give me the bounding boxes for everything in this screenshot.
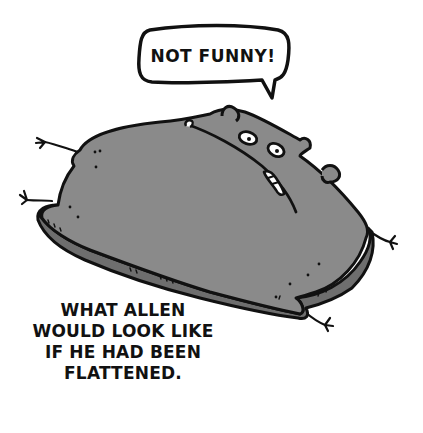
flattened-body — [38, 109, 373, 318]
paw-upper-left — [36, 138, 78, 152]
caption-line: WOULD LOOK LIKE — [28, 321, 218, 342]
ear-right-icon — [322, 166, 340, 183]
speech-bubble: NOT FUNNY! — [139, 26, 289, 99]
caption-line: IF HE HAD BEEN — [28, 342, 218, 363]
nub-icon — [185, 120, 192, 127]
caption-line: FLATTENED. — [28, 363, 218, 384]
paw-bottom — [305, 312, 333, 331]
caption-line: WHAT ALLEN — [28, 300, 218, 321]
body-main — [42, 109, 368, 314]
caption: WHAT ALLEN WOULD LOOK LIKE IF HE HAD BEE… — [28, 300, 218, 384]
speech-bubble-text: NOT FUNNY! — [150, 46, 275, 66]
paw-left — [20, 191, 52, 204]
